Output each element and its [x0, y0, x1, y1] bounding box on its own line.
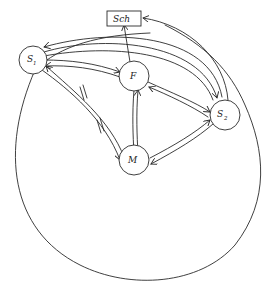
svg-text:F: F [129, 71, 137, 81]
edge-s2-to-f [149, 87, 208, 117]
node-sch: Sch [107, 11, 141, 26]
node-s1: S 1 [19, 46, 47, 74]
svg-text:1: 1 [33, 60, 37, 66]
svg-text:M: M [127, 155, 138, 165]
edge-m-to-s2 [150, 120, 210, 158]
svg-text:Sch: Sch [113, 14, 130, 24]
svg-text:S: S [217, 109, 223, 119]
edge-s2-to-m [151, 124, 213, 164]
node-s2: S 2 [210, 100, 240, 130]
node-m: M [119, 145, 149, 175]
edge-s2-to-sch [143, 18, 228, 100]
edge-m-to-f [137, 90, 138, 154]
node-f: F [119, 61, 149, 91]
edge-f-to-sch [124, 25, 130, 62]
edge-f-to-m [133, 90, 134, 154]
svg-text:2: 2 [223, 115, 228, 121]
edge-f-to-s2 [148, 82, 210, 112]
interaction-diagram: Sch S 1 F S 2 M [0, 0, 268, 294]
edge-s1-to-m [42, 70, 120, 160]
